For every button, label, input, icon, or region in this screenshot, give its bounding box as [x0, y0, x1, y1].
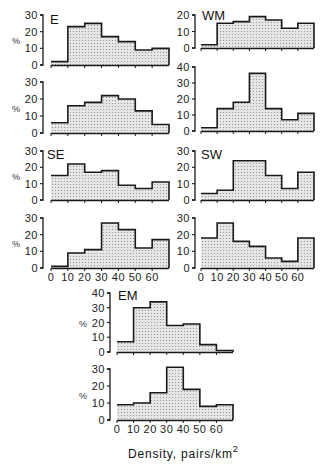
x-tick-label: 30 — [95, 271, 108, 283]
histogram-row-1: 0102030% — [12, 9, 169, 71]
density-histogram-figure: E0102030%0102030%WM01020010203040SE01020… — [0, 0, 326, 465]
y-tick-label: 0 — [183, 125, 190, 137]
y-tick-label: 0 — [31, 194, 38, 206]
y-axis-title: % — [12, 104, 20, 114]
y-tick-label: 30 — [92, 363, 105, 375]
y-tick-label: 10 — [177, 178, 190, 190]
x-tick-label: 30 — [243, 271, 256, 283]
x-tick-label: 0 — [114, 423, 121, 435]
y-tick-label: 0 — [31, 59, 38, 71]
y-tick-label: 0 — [183, 42, 190, 54]
histogram-fill — [201, 73, 314, 131]
y-tick-label: 0 — [31, 127, 38, 139]
panel-em: EM010203040%0102030%0102030405060 — [79, 287, 233, 435]
y-tick-label: 10 — [25, 178, 38, 190]
panel-se: SE0102030%0102030%0102030405060 — [12, 145, 169, 283]
x-tick-label: 60 — [210, 423, 223, 435]
x-tick-label: 10 — [211, 271, 224, 283]
histogram-fill — [51, 223, 169, 268]
panel-label: SW — [201, 147, 223, 162]
panel-wm: WM01020010203040 — [177, 8, 314, 137]
x-tick-label: 0 — [48, 271, 55, 283]
y-tick-label: 30 — [25, 76, 38, 88]
y-tick-label: 30 — [177, 77, 190, 89]
histogram-fill — [51, 23, 169, 65]
y-tick-label: 10 — [92, 397, 105, 409]
y-tick-label: 0 — [98, 346, 105, 358]
x-tick-label: 60 — [146, 271, 159, 283]
y-axis-line — [40, 82, 43, 133]
y-tick-label: 20 — [25, 93, 38, 105]
y-tick-label: 20 — [25, 26, 38, 38]
histogram-row-2: 0102030%0102030405060 — [12, 212, 169, 283]
histogram-row-2: 0102030% — [12, 76, 169, 139]
x-tick-label: 50 — [275, 271, 288, 283]
y-tick-label: 0 — [98, 414, 105, 426]
x-tick-label: 30 — [160, 423, 173, 435]
x-tick-label: 10 — [127, 423, 140, 435]
y-axis-title: % — [79, 391, 87, 401]
x-tick-label: 40 — [259, 271, 272, 283]
y-tick-label: 0 — [31, 262, 38, 274]
y-tick-label: 20 — [177, 9, 190, 21]
x-axis-title: Density, pairs/km2 — [128, 444, 239, 461]
x-tick-label: 20 — [227, 271, 240, 283]
y-tick-label: 30 — [177, 212, 190, 224]
panel-label: EM — [118, 288, 138, 303]
y-axis-line — [40, 218, 43, 268]
x-tick-label: 20 — [78, 271, 91, 283]
x-tick-label: 10 — [61, 271, 74, 283]
y-tick-label: 0 — [183, 194, 190, 206]
x-tick-label: 60 — [291, 271, 304, 283]
panel-e: E0102030%0102030% — [12, 9, 169, 139]
histogram-row-1: 0102030 — [177, 145, 314, 206]
y-tick-label: 10 — [177, 26, 190, 38]
y-tick-label: 10 — [92, 331, 105, 343]
y-axis-line — [40, 15, 43, 65]
x-tick-label: 40 — [177, 423, 190, 435]
y-axis-title: % — [79, 319, 87, 329]
y-axis-line — [40, 151, 43, 200]
x-axis-title-superscript: 2 — [233, 444, 239, 454]
panel-label: SE — [47, 147, 65, 162]
y-tick-label: 10 — [25, 245, 38, 257]
y-tick-label: 10 — [177, 245, 190, 257]
y-axis-line — [192, 151, 195, 200]
y-tick-label: 20 — [177, 161, 190, 173]
x-tick-label: 50 — [193, 423, 206, 435]
y-axis-line — [192, 218, 195, 268]
y-tick-label: 30 — [92, 302, 105, 314]
histogram-fill — [51, 96, 169, 133]
histogram-fill — [51, 164, 169, 200]
histogram-fill — [201, 161, 314, 200]
y-tick-label: 10 — [25, 42, 38, 54]
histogram-row-1: 0102030% — [12, 145, 169, 206]
y-axis-title: % — [12, 36, 20, 46]
y-tick-label: 30 — [25, 212, 38, 224]
y-tick-label: 20 — [92, 380, 105, 392]
histogram-panels: E0102030%0102030%WM01020010203040SE01020… — [12, 8, 314, 435]
y-tick-label: 30 — [177, 145, 190, 157]
x-tick-label: 50 — [129, 271, 142, 283]
y-tick-label: 40 — [177, 61, 190, 73]
histogram-row-2: 01020300102030405060 — [177, 212, 314, 283]
histogram-row-1: 01020 — [177, 9, 314, 54]
y-tick-label: 20 — [177, 229, 190, 241]
y-axis-title: % — [12, 239, 20, 249]
histogram-row-2: 010203040 — [177, 61, 314, 137]
panel-label: WM — [202, 8, 225, 23]
panel-sw: SW010203001020300102030405060 — [177, 145, 314, 283]
y-axis-title: % — [12, 172, 20, 182]
y-tick-label: 20 — [92, 317, 105, 329]
y-tick-label: 20 — [177, 93, 190, 105]
histogram-fill — [117, 367, 233, 420]
y-tick-label: 30 — [25, 145, 38, 157]
y-tick-label: 10 — [177, 109, 190, 121]
y-tick-label: 20 — [25, 229, 38, 241]
y-tick-label: 30 — [25, 9, 38, 21]
y-tick-label: 0 — [183, 262, 190, 274]
x-axis-title-text: Density, pairs/km — [128, 447, 233, 461]
histogram-row-1: 010203040% — [79, 287, 233, 358]
y-tick-label: 40 — [92, 287, 105, 299]
panel-label: E — [50, 12, 59, 27]
